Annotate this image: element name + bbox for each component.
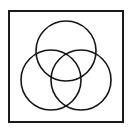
venn-diagram (0, 0, 132, 131)
screenshot-root (0, 0, 132, 131)
